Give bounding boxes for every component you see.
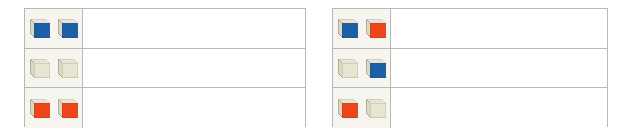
table-row[interactable] — [25, 9, 305, 49]
content-cell[interactable] — [83, 88, 305, 128]
cream-cube-icon[interactable] — [365, 97, 387, 119]
blue-cube-icon[interactable] — [337, 17, 359, 39]
cube-icon-cell[interactable] — [333, 9, 391, 48]
cube-icon-cell[interactable] — [333, 49, 391, 88]
left-cube-table — [24, 8, 306, 127]
red-cube-icon[interactable] — [29, 97, 51, 119]
red-cube-icon[interactable] — [57, 97, 79, 119]
blue-cube-icon[interactable] — [57, 17, 79, 39]
red-cube-icon[interactable] — [337, 97, 359, 119]
table-row[interactable] — [25, 49, 305, 89]
content-cell[interactable] — [391, 88, 607, 128]
blue-cube-icon[interactable] — [29, 17, 51, 39]
content-cell[interactable] — [391, 9, 607, 48]
content-cell[interactable] — [83, 49, 305, 88]
cube-icon-cell[interactable] — [333, 88, 391, 128]
red-cube-icon[interactable] — [365, 17, 387, 39]
content-cell[interactable] — [391, 49, 607, 88]
right-cube-table — [332, 8, 608, 127]
table-row[interactable] — [333, 9, 607, 49]
blue-cube-icon[interactable] — [365, 57, 387, 79]
cube-tables-container — [0, 0, 629, 137]
cream-cube-icon[interactable] — [337, 57, 359, 79]
cream-cube-icon[interactable] — [29, 57, 51, 79]
table-row[interactable] — [25, 88, 305, 128]
cube-icon-cell[interactable] — [25, 49, 83, 88]
cream-cube-icon[interactable] — [57, 57, 79, 79]
content-cell[interactable] — [83, 9, 305, 48]
table-row[interactable] — [333, 49, 607, 89]
table-row[interactable] — [333, 88, 607, 128]
cube-icon-cell[interactable] — [25, 9, 83, 48]
cube-icon-cell[interactable] — [25, 88, 83, 128]
